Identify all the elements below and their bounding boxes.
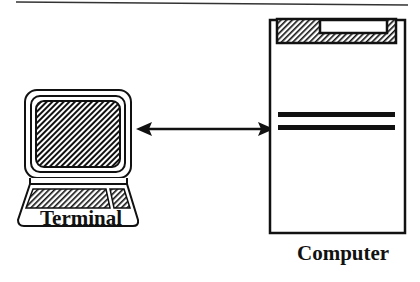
- top-rule: [16, 2, 408, 5]
- computer-cabinet-icon: [270, 19, 405, 233]
- terminal-label: Terminal: [40, 206, 122, 231]
- bidirectional-arrow: [136, 122, 274, 136]
- computer-label: Computer: [297, 241, 389, 266]
- terminal-computer-diagram: [0, 0, 420, 282]
